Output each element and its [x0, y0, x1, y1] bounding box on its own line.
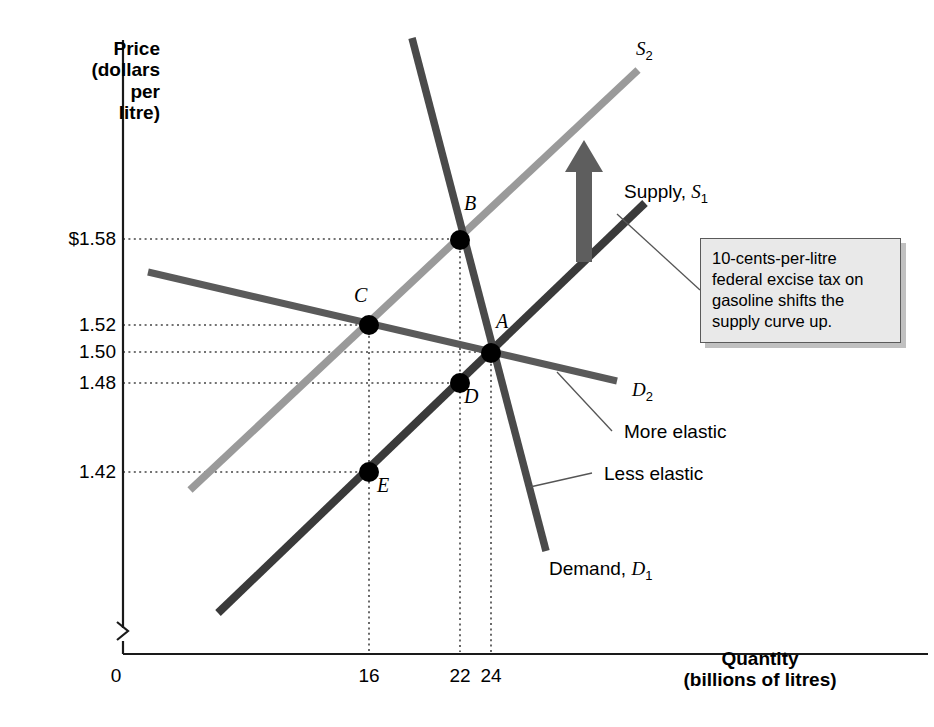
- x-tick-label-24: 24: [471, 665, 511, 686]
- point-label-C: C: [354, 284, 367, 306]
- callout-line-2: federal excise tax on: [712, 269, 890, 290]
- point-label-D: D: [464, 385, 478, 407]
- x-tick-label-16: 16: [349, 665, 389, 686]
- x-axis-title: Quantity (billions of litres): [600, 648, 920, 691]
- annotation-less-elastic: Less elastic: [604, 463, 703, 484]
- annotation-more-elastic: More elastic: [624, 421, 726, 442]
- y-tick-label-142: 1.42: [48, 461, 116, 482]
- point-marker-C: [359, 315, 379, 335]
- x-axis-title-line-1: Quantity: [600, 648, 920, 669]
- point-label-B: B: [464, 192, 476, 214]
- curve-label-d2-sub: 2: [646, 389, 653, 404]
- curve-label-s1-symbol: S: [691, 181, 701, 202]
- tax-explanation-callout: 10-cents-per-litre federal excise tax on…: [700, 238, 901, 343]
- curve-label-s2-sub: 2: [646, 48, 653, 63]
- point-marker-B: [450, 230, 470, 250]
- axis-lines: [117, 40, 928, 654]
- callout-line-1: 10-cents-per-litre: [712, 248, 890, 269]
- point-label-E: E: [377, 474, 389, 496]
- y-tick-label-152: 1.52: [48, 314, 116, 335]
- callout-line-4: supply curve up.: [712, 311, 890, 332]
- y-axis-title-line-4: litre): [52, 102, 160, 123]
- curve-label-s1-sub: 1: [701, 191, 708, 206]
- y-tick-label-148: 1.48: [48, 372, 116, 393]
- point-label-A: A: [496, 310, 508, 332]
- y-tick-label-150: 1.50: [48, 341, 116, 362]
- leader-lines: [530, 214, 700, 487]
- y-axis-title: Price (dollars per litre): [52, 38, 160, 123]
- economics-supply-demand-figure: Price (dollars per litre) $1.58 1.52 1.5…: [0, 0, 934, 727]
- leader-callout-to-s1: [617, 214, 700, 290]
- leader-less-elastic-to-d1: [530, 473, 592, 487]
- curve-label-d2-symbol: D: [632, 379, 646, 400]
- curve-label-supply-text: Supply,: [624, 181, 686, 202]
- x-axis-title-line-2: (billions of litres): [600, 669, 920, 690]
- curve-label-d2: D2: [632, 379, 653, 404]
- point-marker-A: [481, 343, 501, 363]
- curve-label-d1-symbol: D: [631, 558, 645, 579]
- curve-label-d1-sub: 1: [645, 568, 652, 583]
- curve-label-s2: S2: [636, 38, 653, 63]
- curve-demand-d1: [412, 38, 546, 551]
- curve-label-s2-symbol: S: [636, 38, 646, 59]
- y-tick-label-158: $1.58: [48, 228, 116, 249]
- y-axis-title-line-1: Price: [52, 38, 160, 59]
- curve-label-demand-text: Demand,: [549, 558, 626, 579]
- y-axis-title-line-3: per: [52, 81, 160, 102]
- y-axis-title-line-2: (dollars: [52, 59, 160, 80]
- curve-label-supply-s1: Supply, S1: [624, 181, 708, 206]
- point-marker-E: [359, 462, 379, 482]
- callout-line-3: gasoline shifts the: [712, 290, 890, 311]
- curve-label-demand-d1: Demand, D1: [549, 558, 652, 583]
- origin-label: 0: [104, 665, 128, 686]
- curve-demand-d2: [148, 272, 617, 381]
- guide-lines: [123, 239, 491, 652]
